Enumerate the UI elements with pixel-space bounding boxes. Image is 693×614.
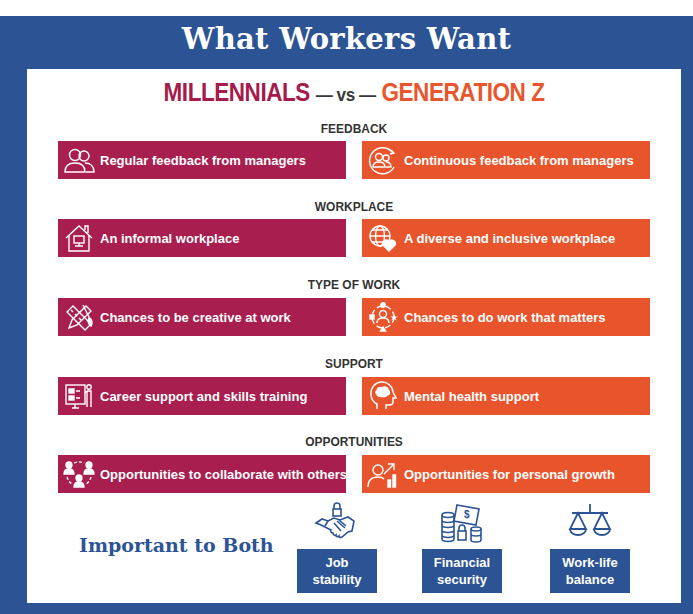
job-stability-badge: Job stability <box>297 549 377 593</box>
handshake-lock-icon <box>297 499 377 545</box>
card-text: Chances to do work that matters <box>404 310 606 325</box>
section-heading-support: SUPPORT <box>53 356 655 371</box>
balance-scale-icon <box>550 499 630 545</box>
section-heading-feedback: FEEDBACK <box>53 121 655 136</box>
generation-z-card-workplace: A diverse and inclusive workplace <box>362 219 650 257</box>
presentation-board-icon <box>58 377 100 415</box>
team-collaboration-icon <box>58 455 100 493</box>
generation-z-card-feedback: Continuous feedback from managers <box>362 141 650 179</box>
millennials-card-feedback: Regular feedback from managers <box>58 141 346 179</box>
card-text: A diverse and inclusive workplace <box>404 231 615 246</box>
section-heading-opportunities: OPPORTUNITIES <box>53 434 655 449</box>
generation-z-card-opportunities: Opportunities for personal growth <box>362 455 650 493</box>
svg-text:$: $ <box>464 509 470 520</box>
millennials-card-support: Career support and skills training <box>58 377 346 415</box>
financial-security-badge: Financial security <box>422 549 502 593</box>
card-text: Career support and skills training <box>100 389 307 404</box>
house-computer-icon <box>58 219 100 257</box>
both-item-financial-security: $ Financial security <box>422 499 502 593</box>
millennials-card-opportunities: Opportunities to collaborate with others <box>58 455 346 493</box>
head-brain-icon <box>362 377 404 415</box>
coins-money-lock-icon: $ <box>422 499 502 545</box>
section-heading-type-of-work: TYPE OF WORK <box>53 277 655 292</box>
vs-separator: — vs — <box>316 84 376 105</box>
card-text: Opportunities to collaborate with others <box>100 467 347 482</box>
page-title: What Workers Want <box>0 22 693 56</box>
both-item-work-life-balance: Work-life balance <box>550 499 630 593</box>
badge-line2: balance <box>550 571 630 588</box>
both-item-job-stability: Job stability <box>297 499 377 593</box>
card-text: Continuous feedback from managers <box>404 153 634 168</box>
badge-line1: Job <box>297 554 377 571</box>
pencil-ruler-brush-icon <box>58 298 100 336</box>
people-cycle-icon <box>362 141 404 179</box>
card-text: Mental health support <box>404 389 539 404</box>
globe-heart-icon <box>362 219 404 257</box>
millennials-label: MILLENNIALS <box>164 78 310 106</box>
content-panel: MILLENNIALS — vs — GENERATION Z FEEDBACK… <box>27 69 681 603</box>
card-text: Chances to be creative at work <box>100 310 291 325</box>
person-growth-chart-icon <box>362 455 404 493</box>
important-to-both-label: Important to Both <box>79 534 274 556</box>
badge-line2: stability <box>297 571 377 588</box>
card-text: Opportunities for personal growth <box>404 467 615 482</box>
person-shapes-cycle-icon <box>362 298 404 336</box>
generation-z-label: GENERATION Z <box>381 78 544 106</box>
section-heading-workplace: WORKPLACE <box>53 199 655 214</box>
comparison-header: MILLENNIALS — vs — GENERATION Z <box>60 78 649 107</box>
generation-z-card-support: Mental health support <box>362 377 650 415</box>
work-life-balance-badge: Work-life balance <box>550 549 630 593</box>
badge-line1: Work-life <box>550 554 630 571</box>
card-text: Regular feedback from managers <box>100 153 306 168</box>
badge-line1: Financial <box>422 554 502 571</box>
millennials-card-type-of-work: Chances to be creative at work <box>58 298 346 336</box>
generation-z-card-type-of-work: Chances to do work that matters <box>362 298 650 336</box>
card-text: An informal workplace <box>100 231 239 246</box>
badge-line2: security <box>422 571 502 588</box>
two-people-icon <box>58 141 100 179</box>
millennials-card-workplace: An informal workplace <box>58 219 346 257</box>
